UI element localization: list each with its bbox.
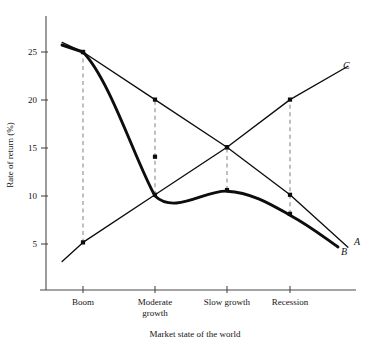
- series-b-point-slow-growth: [225, 188, 229, 192]
- series-c-line: [62, 66, 348, 261]
- series-a-line: [62, 42, 348, 247]
- dashed-connectors: [83, 52, 290, 242]
- series-c-group: C: [62, 60, 350, 261]
- y-tick-label-5: 5: [33, 239, 38, 249]
- x-label-recession: Recession: [272, 297, 309, 307]
- series-c-label: C: [343, 60, 350, 71]
- x-category-labels: Boom Moderate growth Slow growth Recessi…: [72, 297, 309, 318]
- y-tick-label-20: 20: [28, 95, 38, 105]
- y-axis-title: Rate of return (%): [5, 122, 15, 188]
- y-tick-label-10: 10: [28, 191, 38, 201]
- series-c-point-boom: [81, 240, 85, 244]
- series-b-point-recession: [288, 212, 292, 216]
- x-axis-title: Market state of the world: [150, 329, 241, 339]
- series-c-point-recession: [288, 98, 292, 102]
- x-label-moderate: Moderate: [138, 297, 172, 307]
- series-a-point-moderate-growth: [153, 98, 157, 102]
- series-a-point-slow-growth: [225, 145, 229, 149]
- rate-of-return-line-chart: 25 20 15 10 5 Boom Moderate growth Slow …: [0, 0, 381, 343]
- y-tick-label-15: 15: [28, 143, 38, 153]
- series-b-label: B: [341, 246, 347, 257]
- series-b-point-moderate-growth: [153, 155, 157, 159]
- x-label-slow-growth: Slow growth: [204, 297, 251, 307]
- y-tick-label-25: 25: [28, 47, 38, 57]
- series-b-group: B: [62, 45, 347, 257]
- series-a-point-recession: [288, 193, 292, 197]
- y-tick-marks: [41, 52, 48, 244]
- y-tick-labels: 25 20 15 10 5: [28, 47, 38, 249]
- x-label-moderate-line2: growth: [142, 308, 168, 318]
- chart-container: 25 20 15 10 5 Boom Moderate growth Slow …: [0, 0, 381, 343]
- series-b-point-boom: [81, 50, 85, 54]
- x-label-boom: Boom: [72, 297, 94, 307]
- series-a-label: A: [353, 236, 361, 247]
- series-a-group: A: [62, 42, 361, 247]
- series-b-curve: [62, 45, 338, 247]
